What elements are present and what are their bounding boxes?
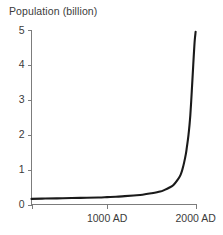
data-series-group (32, 32, 196, 199)
plot-area (0, 0, 223, 235)
population-growth-chart: Population (billion) 543210 1000 AD2000 … (0, 0, 223, 235)
y-tick-label: 0 (9, 199, 25, 210)
x-tick-label: 1000 AD (72, 213, 142, 224)
x-axis-ticks (33, 205, 197, 209)
y-axis-ticks (28, 31, 32, 206)
axes (32, 30, 197, 205)
y-tick-label: 3 (9, 94, 25, 105)
y-tick-label: 2 (9, 129, 25, 140)
y-tick-label: 4 (9, 59, 25, 70)
y-tick-label: 1 (9, 164, 25, 175)
x-tick-label: 2000 AD (161, 213, 223, 224)
y-tick-label: 5 (9, 25, 25, 36)
population-curve (32, 32, 196, 199)
